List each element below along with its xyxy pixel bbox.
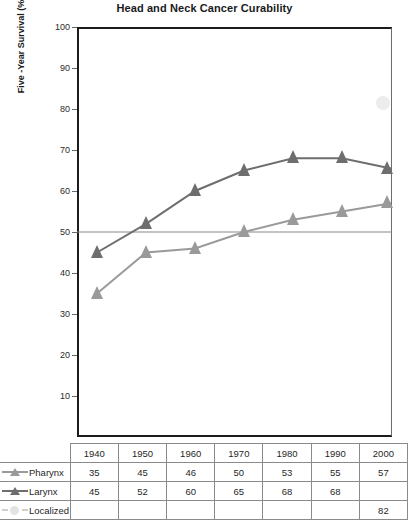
legend-label-localized: Localized: [29, 505, 69, 516]
cell-larynx-1940: 45: [70, 482, 118, 501]
cell-pharynx-1950: 45: [118, 463, 166, 482]
y-tick-label-40: 40: [44, 269, 70, 278]
y-tick-label-30: 30: [44, 310, 70, 319]
legend-item-localized: Localized: [0, 501, 70, 520]
series-layer: [77, 27, 392, 437]
cell-localized-1990: [311, 501, 359, 520]
y-axis-title: Five -Year Survival (%): [16, 0, 26, 140]
table-header-1970: 1970: [215, 444, 263, 463]
cell-pharynx-1990: 55: [311, 463, 359, 482]
marker-larynx-1990: [336, 150, 348, 163]
pharynx-marker-icon: [2, 467, 28, 477]
y-tick-label-90: 90: [44, 64, 70, 73]
cell-larynx-1990: 68: [311, 482, 359, 501]
table-header-2000: 2000: [359, 444, 407, 463]
cell-localized-1970: [215, 501, 263, 520]
marker-pharynx-1940: [91, 286, 103, 299]
cell-larynx-1980: 68: [263, 482, 311, 501]
table-row: Pharynx 35 45 46 50 53 55 57: [0, 463, 408, 482]
legend-item-larynx: Larynx: [0, 482, 70, 501]
localized-marker-icon: [2, 505, 28, 515]
cell-localized-1980: [263, 501, 311, 520]
table-header-row: 1940 1950 1960 1970 1980 1990 2000: [0, 444, 408, 463]
table-header-1990: 1990: [311, 444, 359, 463]
table-header-1940: 1940: [70, 444, 118, 463]
series-localized: [376, 96, 390, 110]
cell-localized-1940: [70, 501, 118, 520]
legend-label-larynx: Larynx: [29, 486, 58, 497]
cell-larynx-2000: [359, 482, 407, 501]
legend-item-pharynx: Pharynx: [0, 463, 70, 482]
cell-pharynx-2000: 57: [359, 463, 407, 482]
table-header-1950: 1950: [118, 444, 166, 463]
cell-localized-2000: 82: [359, 501, 407, 520]
y-tick-label-100: 100: [44, 23, 70, 32]
table-row: Larynx 45 52 60 65 68 68: [0, 482, 408, 501]
y-tick-label-50: 50: [44, 228, 70, 237]
marker-larynx-1980: [287, 150, 299, 163]
cell-larynx-1950: 52: [118, 482, 166, 501]
cell-localized-1960: [167, 501, 215, 520]
chart-title: Head and Neck Cancer Curability: [0, 2, 409, 14]
y-tick-label-20: 20: [44, 351, 70, 360]
y-tick-label-60: 60: [44, 187, 70, 196]
cell-pharynx-1940: 35: [70, 463, 118, 482]
marker-larynx-1950: [140, 216, 152, 229]
data-table: 1940 1950 1960 1970 1980 1990 2000 Phary…: [0, 443, 408, 520]
cell-pharynx-1980: 53: [263, 463, 311, 482]
y-tick-label-70: 70: [44, 146, 70, 155]
y-tick-label-10: 10: [44, 392, 70, 401]
table-row: Localized 82: [0, 501, 408, 520]
cell-larynx-1960: 60: [167, 482, 215, 501]
table-header-blank: [0, 444, 70, 463]
marker-localized-2000: [376, 96, 390, 110]
series-larynx: [91, 150, 393, 258]
marker-larynx-1940: [91, 245, 103, 258]
cell-larynx-1970: 65: [215, 482, 263, 501]
table-header-1960: 1960: [167, 444, 215, 463]
larynx-marker-icon: [2, 486, 28, 496]
legend-label-pharynx: Pharynx: [29, 467, 64, 478]
table-header-1980: 1980: [263, 444, 311, 463]
cell-pharynx-1960: 46: [167, 463, 215, 482]
marker-pharynx-2000: [381, 195, 393, 208]
y-tick-label-80: 80: [44, 105, 70, 114]
cell-pharynx-1970: 50: [215, 463, 263, 482]
cell-localized-1950: [118, 501, 166, 520]
series-pharynx: [91, 195, 393, 299]
